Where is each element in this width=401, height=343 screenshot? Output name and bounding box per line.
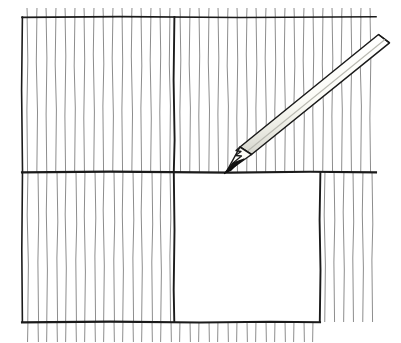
drawing-surface [0,0,401,343]
frame-mid-horizontal-rule [22,172,376,173]
frame-right-inner-rule [320,172,321,322]
frame-mid-vertical-rule [174,17,175,322]
frame-left-rule [22,17,23,322]
illustration-canvas: Pencil ruling a line across vertically h… [0,0,401,343]
frame-top-rule [22,17,376,18]
frame-bottom-rule [22,322,320,323]
